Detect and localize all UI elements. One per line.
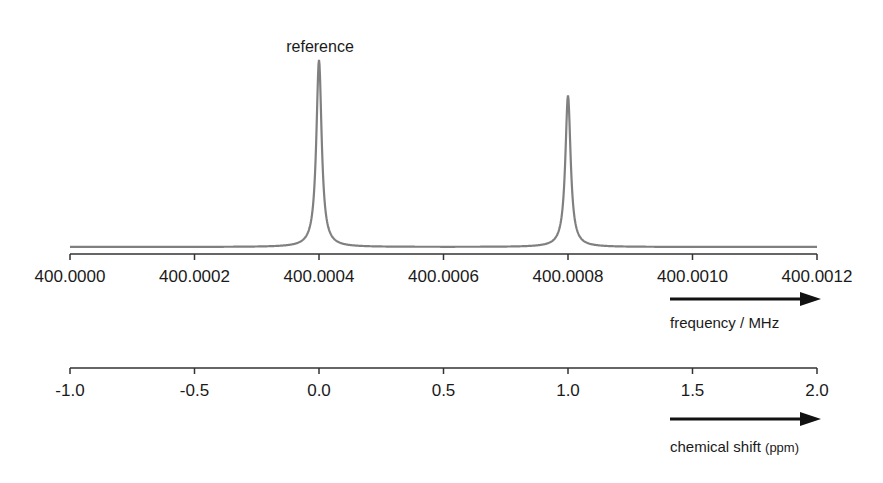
frequency-tick-label: 400.0004	[284, 267, 355, 286]
shift-tick-label: 1.0	[556, 381, 580, 400]
shift-axis-title: chemical shift (ppm)	[670, 438, 799, 455]
shift-tick-label: 0.5	[432, 381, 456, 400]
frequency-tick-label: 400.0008	[533, 267, 604, 286]
frequency-tick-label: 400.0000	[35, 267, 106, 286]
nmr-spectrum-chart: reference 400.0000400.0002400.0004400.00…	[0, 0, 883, 483]
frequency-tick-label: 400.0010	[657, 267, 728, 286]
shift-axis-title-main: chemical shift	[670, 438, 765, 455]
shift-arrow-icon	[670, 412, 821, 426]
shift-tick-label: 0.0	[307, 381, 331, 400]
frequency-tick-label: 400.0006	[408, 267, 479, 286]
shift-tick-label: 2.0	[805, 381, 829, 400]
chemical-shift-axis: -1.0-0.50.00.51.01.52.0	[55, 368, 828, 400]
reference-annotation: reference	[286, 38, 354, 55]
shift-axis-title-unit: (ppm)	[765, 440, 799, 455]
frequency-arrow-icon	[670, 292, 821, 306]
shift-tick-label: -1.0	[55, 381, 84, 400]
frequency-axis-title: frequency / MHz	[670, 314, 779, 331]
spectrum-line	[70, 60, 817, 247]
shift-tick-label: -0.5	[180, 381, 209, 400]
frequency-tick-label: 400.0002	[159, 267, 230, 286]
frequency-axis: 400.0000400.0002400.0004400.0006400.0008…	[35, 254, 853, 286]
frequency-tick-label: 400.0012	[782, 267, 853, 286]
shift-tick-label: 1.5	[681, 381, 705, 400]
